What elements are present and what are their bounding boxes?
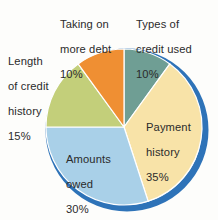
slice-label-types-of-credit-used: Types of credit used 10%: [136, 5, 212, 93]
slice-label-line: Length: [8, 55, 70, 68]
slice-label-line: credit used: [136, 43, 212, 56]
slice-label-value: 15%: [8, 130, 70, 143]
slice-label-payment-history: Payment history 35%: [146, 108, 208, 196]
slice-label-value: 35%: [146, 171, 208, 184]
pie-chart: Taking on more debt 10% Types of credit …: [0, 0, 218, 220]
slice-label-line: Types of: [136, 18, 212, 31]
slice-label-value: 10%: [136, 68, 212, 81]
slice-label-length-of-credit-history: Length of credit history 15%: [8, 42, 70, 155]
slice-label-amounts-owed: Amounts owed 30%: [66, 140, 132, 220]
slice-label-line: Taking on: [60, 18, 126, 31]
slice-label-line: owed: [66, 178, 132, 191]
slice-label-line: of credit: [8, 80, 70, 93]
slice-label-line: Payment: [146, 121, 208, 134]
slice-label-line: history: [146, 146, 208, 159]
slice-label-line: Amounts: [66, 153, 132, 166]
slice-label-line: history: [8, 105, 70, 118]
slice-label-value: 30%: [66, 203, 132, 216]
